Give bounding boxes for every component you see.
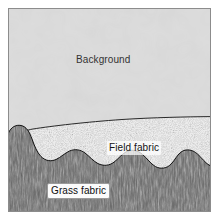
label-background: Background [76, 54, 130, 66]
fabric-layers-figure: Background Field fabric Grass fabric [0, 0, 219, 220]
label-field-fabric: Field fabric [107, 141, 161, 155]
label-grass-fabric: Grass fabric [47, 183, 110, 199]
